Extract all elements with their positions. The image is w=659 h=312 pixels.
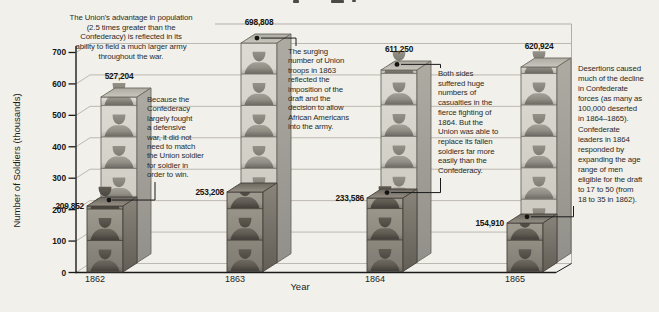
connector-line	[391, 178, 441, 193]
connector-line	[531, 206, 574, 217]
connector-dot	[525, 214, 530, 219]
annotation-union-draft-1863: The surging number of Union troops in 18…	[288, 47, 366, 132]
annotation-confederate-defensive-war: Because the Confederacy largely fought a…	[147, 95, 221, 180]
connector-dot	[107, 198, 112, 203]
annotation-confederate-desertions: Desertions caused much of the decline in…	[578, 64, 659, 205]
connector-line	[401, 64, 441, 68]
connector-line	[112, 182, 155, 200]
connector-dot	[255, 36, 260, 41]
connector-dot	[395, 62, 400, 67]
civil-war-army-size-chart: Number of Soldiers (thousands) Year 0100…	[0, 0, 659, 312]
annotation-casualties-1864: Both sides suffered huge numbers of casu…	[438, 69, 518, 176]
connector-dot	[385, 190, 390, 195]
connector-line	[261, 38, 296, 46]
annotation-union-population-advantage: The Union's advantage in population (2.5…	[48, 13, 214, 62]
